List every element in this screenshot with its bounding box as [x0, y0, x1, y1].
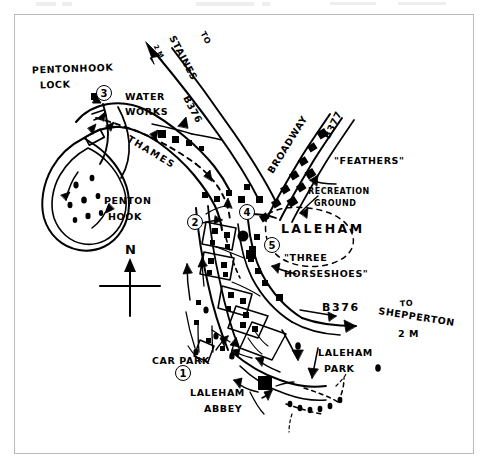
label-recreation-ground-line2: GROUND: [314, 200, 356, 209]
label-b376-shepperton-road-number: B376: [322, 302, 360, 314]
map-marker-3[interactable]: 3: [96, 85, 112, 101]
label-laleham-park-line1: LALEHAM: [318, 348, 373, 359]
scan-artifact-mark: [196, 2, 254, 6]
label-recreation-ground-line1: RECREATION: [308, 188, 370, 197]
label-penton-hook-line2: HOOK: [108, 212, 142, 223]
label-three-horseshoes-line1: "THREE: [284, 253, 327, 264]
label-laleham-park-line2: PARK: [324, 364, 355, 375]
label-feathers: "FEATHERS": [334, 156, 405, 167]
compass-north-arrow: N: [96, 244, 168, 318]
label-water-works-line2: WORKS: [125, 107, 168, 118]
label-laleham-abbey-line2: ABBEY: [204, 404, 242, 415]
label-to-shepperton-distance: 2 M: [398, 329, 419, 340]
label-water-works-line1: WATER: [125, 92, 165, 103]
label-pentonhook-lock-line2: LOCK: [40, 79, 71, 91]
scan-artifact-mark: [36, 2, 56, 6]
label-laleham-abbey-line1: LALEHAM: [190, 388, 245, 399]
scan-artifacts: [0, 0, 488, 12]
label-laleham: LALEHAM: [281, 222, 365, 236]
map-marker-4[interactable]: 4: [239, 204, 255, 220]
compass-north-label: N: [125, 242, 136, 257]
scan-artifact-mark: [330, 2, 376, 5]
map-marker-2[interactable]: 2: [187, 214, 203, 230]
scan-artifact-mark: [398, 2, 446, 5]
scan-artifact-mark: [262, 2, 270, 6]
label-three-horseshoes-line2: HORSESHOES": [284, 269, 368, 280]
map-page: PENTONHOOK LOCK WATER WORKS TO STAINES B…: [0, 0, 488, 473]
label-penton-hook-line1: PENTON: [104, 196, 152, 207]
map-marker-5[interactable]: 5: [264, 237, 280, 253]
scan-artifact-mark: [62, 2, 72, 6]
map-marker-1[interactable]: 1: [175, 365, 191, 381]
